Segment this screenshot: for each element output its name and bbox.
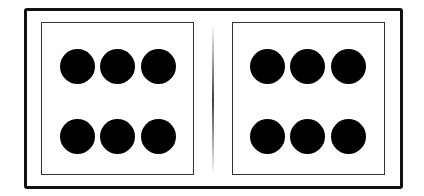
pip-right-6 [331,119,366,154]
pip-right-5 [290,119,325,154]
pip-left-2 [100,49,135,84]
pip-right-1 [250,49,285,84]
pip-left-1 [60,49,95,84]
pip-right-3 [331,49,366,84]
pip-right-2 [290,49,325,84]
pip-right-4 [250,119,285,154]
pip-left-6 [141,119,176,154]
center-divider [211,24,215,176]
pip-left-5 [100,119,135,154]
pip-left-3 [141,49,176,84]
pip-left-4 [60,119,95,154]
